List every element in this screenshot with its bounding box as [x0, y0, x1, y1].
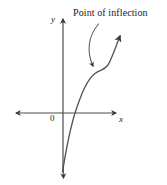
callout-pointer-arrow — [89, 24, 98, 66]
point-of-inflection-label: Point of inflection — [73, 8, 148, 18]
cubic-curve — [63, 36, 121, 172]
y-axis-label: y — [51, 15, 55, 24]
x-axis-label: x — [119, 115, 123, 124]
origin-label: 0 — [50, 114, 55, 123]
graph-svg — [0, 0, 167, 185]
figure-canvas: y x 0 Point of inflection — [0, 0, 167, 185]
